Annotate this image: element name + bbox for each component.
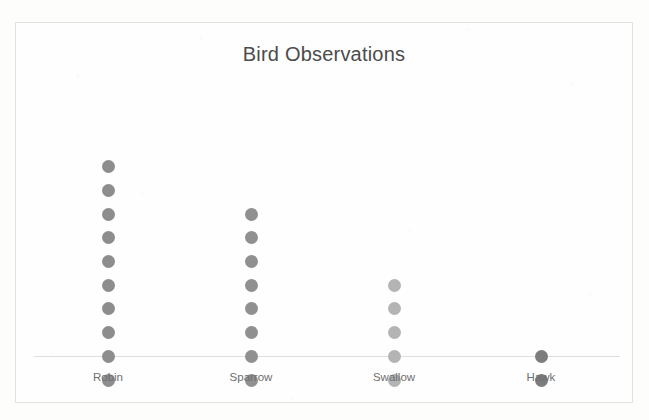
category-label-sparrow: Sparrow — [181, 371, 321, 383]
dot-column-robin — [78, 62, 138, 402]
data-point-dot — [245, 231, 258, 244]
data-point-dot — [388, 302, 401, 315]
data-point-dot — [245, 255, 258, 268]
data-point-dot — [535, 350, 548, 363]
data-point-dot — [102, 326, 115, 339]
data-point-dot — [102, 255, 115, 268]
dot-column-sparrow — [221, 62, 281, 402]
category-label-hawk: Hawk — [471, 371, 611, 383]
data-point-dot — [245, 302, 258, 315]
dot-column-swallow — [364, 62, 424, 402]
data-point-dot — [245, 350, 258, 363]
dot-column-hawk — [511, 62, 571, 402]
chart-frame: Bird Observations RobinSparrowSwallowHaw… — [15, 22, 633, 403]
category-label-swallow: Swallow — [324, 371, 464, 383]
data-point-dot — [102, 350, 115, 363]
data-point-dot — [388, 326, 401, 339]
data-point-dot — [102, 231, 115, 244]
category-label-robin: Robin — [38, 371, 178, 383]
data-point-dot — [102, 279, 115, 292]
data-point-dot — [245, 326, 258, 339]
data-point-dot — [102, 184, 115, 197]
plot-area: RobinSparrowSwallowHawk — [16, 23, 632, 402]
data-point-dot — [245, 208, 258, 221]
data-point-dot — [388, 350, 401, 363]
data-point-dot — [102, 302, 115, 315]
data-point-dot — [245, 279, 258, 292]
data-point-dot — [388, 279, 401, 292]
data-point-dot — [102, 160, 115, 173]
data-point-dot — [102, 208, 115, 221]
